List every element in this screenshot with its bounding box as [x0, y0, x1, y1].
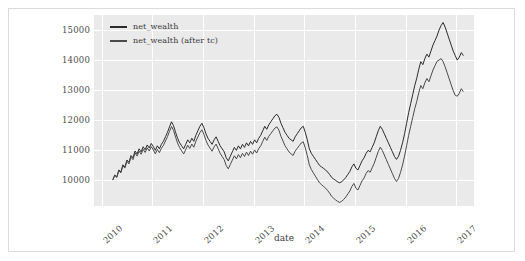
- y-tick-label: 10000: [38, 175, 90, 185]
- series-line-1: [113, 59, 464, 203]
- figure-canvas: 100001100012000130001400015000 net_wealt…: [8, 8, 515, 252]
- legend-item-net-wealth[interactable]: net_wealth: [110, 21, 218, 32]
- y-tick-label: 15000: [38, 25, 90, 35]
- legend-swatch-net-wealth: [110, 26, 127, 28]
- y-tick-label: 12000: [38, 115, 90, 125]
- y-tick-label: 13000: [38, 85, 90, 95]
- legend-swatch-net-wealth-after-tc: [110, 40, 127, 42]
- legend-item-net-wealth-after-tc[interactable]: net_wealth (after tc): [110, 35, 218, 46]
- y-tick-label: 14000: [38, 55, 90, 65]
- plot-area: net_wealth net_wealth (after tc): [94, 15, 474, 206]
- y-tick-label: 11000: [38, 145, 90, 155]
- legend-label-net-wealth: net_wealth: [133, 22, 178, 31]
- x-axis-title: date: [94, 233, 474, 243]
- y-axis-tick-labels: 100001100012000130001400015000: [34, 15, 90, 206]
- legend: net_wealth net_wealth (after tc): [110, 21, 218, 49]
- legend-label-net-wealth-after-tc: net_wealth (after tc): [133, 36, 218, 45]
